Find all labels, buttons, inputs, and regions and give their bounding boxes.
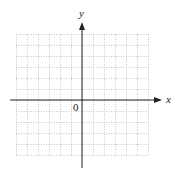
coordinate-plane (0, 0, 181, 177)
y-axis-label: y (79, 8, 84, 19)
x-axis-arrow-icon (154, 97, 162, 103)
x-axis-label: x (166, 94, 171, 105)
origin-label: 0 (73, 102, 79, 113)
axes (10, 22, 162, 168)
y-axis-arrow-icon (79, 22, 85, 30)
